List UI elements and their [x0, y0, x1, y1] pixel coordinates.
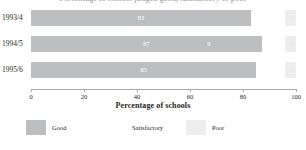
bar-value-label: 4 — [285, 36, 296, 52]
chart-legend: Good Satisfactory Poor — [0, 119, 306, 141]
legend-label: Good — [52, 119, 66, 137]
x-axis-line — [31, 89, 296, 90]
x-axis-tick-label: 0 — [19, 92, 43, 101]
bar-value-label — [251, 10, 285, 26]
bar-value-label — [256, 62, 285, 78]
x-axis-tick-label: 60 — [178, 92, 202, 101]
category-label-1994-5: 1994/5 — [2, 36, 29, 52]
bar-segment-poor-1995-6[interactable]: 4 — [285, 62, 296, 78]
bar-row: 1995/6 85 4 — [0, 62, 306, 78]
category-label-1993-4: 1993/4 — [2, 10, 29, 26]
plot-area: 1993/4 83 4 1994/5 87 9 4 1995/6 85 — [0, 7, 306, 87]
bar-row: 1993/4 83 4 — [0, 10, 306, 26]
bar-value-label: 4 — [285, 62, 296, 78]
bar-segment-satisfactory-1995-6[interactable] — [256, 62, 285, 78]
bar-value-label: 9 — [197, 36, 221, 52]
bar-value-label: 4 — [285, 10, 296, 26]
x-axis-tick-label: 20 — [72, 92, 96, 101]
x-axis-tick-label: 100 — [284, 92, 306, 101]
legend-swatch-good — [26, 120, 46, 135]
bar-value-label: 85 — [31, 62, 256, 78]
chart-title: Percentage of schools judged good, satis… — [0, 0, 306, 3]
x-axis-tick-label: 40 — [125, 92, 149, 101]
bar-segment-good-1993-4[interactable]: 83 — [31, 10, 251, 26]
category-label-1995-6: 1995/6 — [2, 62, 29, 78]
x-axis-title: Percentage of schools — [0, 101, 306, 110]
bar-row: 1994/5 87 9 4 — [0, 36, 306, 52]
legend-label: Poor — [212, 119, 224, 137]
bar-segment-good-1995-6[interactable]: 85 — [31, 62, 256, 78]
bar-segment-good-1994-5[interactable]: 87 — [31, 36, 262, 52]
legend-label: Satisfactory — [132, 119, 163, 137]
legend-swatch-poor — [186, 120, 206, 135]
bar-segment-satisfactory-1994-5[interactable]: 9 — [197, 36, 221, 52]
bar-segment-satisfactory-1993-4[interactable] — [251, 10, 285, 26]
x-axis-tick-label: 80 — [231, 92, 255, 101]
bar-value-label: 87 — [31, 36, 262, 52]
bar-segment-poor-1993-4[interactable]: 4 — [285, 10, 296, 26]
legend-swatch-satisfactory — [106, 120, 126, 135]
bar-segment-poor-1994-5[interactable]: 4 — [285, 36, 296, 52]
bar-value-label: 83 — [31, 10, 251, 26]
